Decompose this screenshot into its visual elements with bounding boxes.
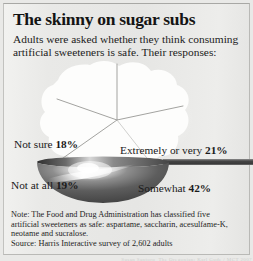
pie-chart: Not sure 18% Extremely or very 21% Not a… — [0, 58, 253, 203]
slice-value-somewhat: 42% — [189, 182, 212, 194]
credit-watermark: Susan Santoro, The Oregonian; Karl Gude … — [121, 257, 252, 261]
source-text: Source: Harris Interactive survey of 2,6… — [11, 239, 235, 249]
slice-value-not-sure: 18% — [55, 138, 78, 150]
slice-label-not-sure: Not sure 18% — [14, 138, 78, 150]
slice-label-extremely-or-very: Extremely or very 21% — [120, 144, 228, 156]
page-title: The skinny on sugar subs — [13, 9, 195, 30]
footnotes: Note: The Food and Drug Administration h… — [11, 210, 235, 248]
slice-label-extremely-or-very-text: Extremely or very — [120, 144, 205, 156]
slice-value-extremely-or-very: 21% — [205, 144, 228, 156]
slice-label-somewhat-text: Somewhat — [138, 182, 189, 194]
slice-label-somewhat: Somewhat 42% — [138, 182, 211, 194]
spoon-highlight-core — [77, 163, 99, 173]
slice-value-not-at-all: 19% — [56, 179, 79, 191]
note-text: Note: The Food and Drug Administration h… — [11, 210, 228, 238]
slice-label-not-at-all: Not at all 19% — [11, 179, 78, 191]
slice-label-not-at-all-text: Not at all — [11, 179, 56, 191]
slice-label-not-sure-text: Not sure — [14, 138, 55, 150]
infographic-panel: The skinny on sugar subs Adults were ask… — [0, 0, 253, 261]
subtitle-text: Adults were asked whether they think con… — [13, 33, 244, 59]
spoon-handle — [163, 159, 253, 165]
